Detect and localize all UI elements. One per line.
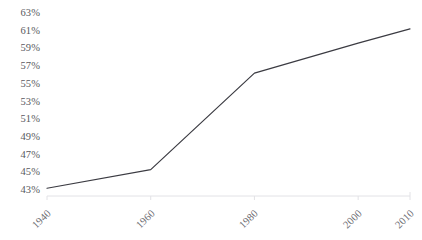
axis-lines: [47, 192, 410, 196]
x-axis-ticks: [47, 196, 410, 200]
plot-area: [0, 0, 422, 240]
data-line-series-1: [47, 29, 410, 188]
line-chart: 63%61%59%57%55%53%51%49%47%45%43% 194019…: [0, 0, 422, 240]
